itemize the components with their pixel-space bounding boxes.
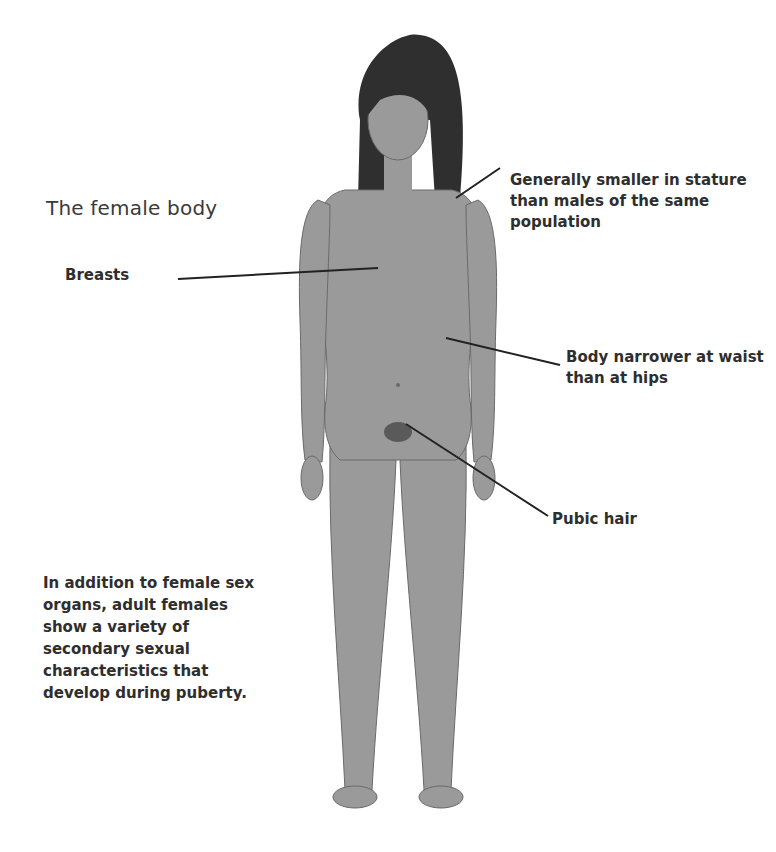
right-leg [400,440,466,790]
left-leg [330,440,396,790]
left-hand [301,456,323,500]
description-note: In addition to female sex organs, adult … [43,572,273,704]
left-foot [333,786,377,808]
label-breasts: Breasts [65,265,129,286]
navel [396,383,400,387]
right-hand [473,456,495,500]
diagram-title: The female body [46,196,217,220]
label-pubic-hair: Pubic hair [552,509,637,530]
right-foot [419,786,463,808]
label-stature: Generally smaller in stature than males … [510,170,750,233]
torso [317,190,479,460]
body-figure [0,0,776,852]
label-waist: Body narrower at waist than at hips [566,347,766,389]
leader-line-stature [456,168,500,198]
